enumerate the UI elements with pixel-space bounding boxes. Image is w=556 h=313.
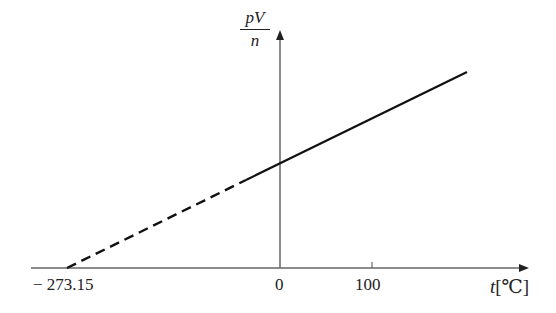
x-tick-label-absolute-zero: − 273.15: [33, 275, 94, 295]
x-label-unit: [℃]: [495, 276, 529, 297]
x-axis-label: t[℃]: [490, 275, 529, 298]
x-tick-label-100: 100: [355, 275, 381, 295]
x-axis-arrow-icon: [519, 264, 529, 272]
y-label-denominator: n: [238, 31, 272, 51]
x-tick-label-0: 0: [275, 275, 284, 295]
y-axis-arrow-icon: [276, 30, 284, 40]
extrapolated-line: [67, 180, 246, 268]
y-axis-label: pV n: [238, 8, 272, 51]
fraction-bar: [240, 29, 270, 30]
y-label-numerator: pV: [238, 8, 272, 28]
measured-line: [246, 72, 467, 180]
chart-canvas: [0, 0, 556, 313]
